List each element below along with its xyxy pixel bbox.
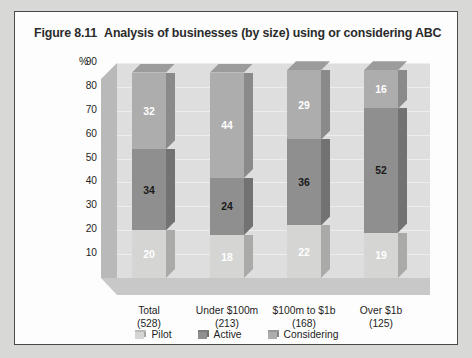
figure-panel: Figure 8.11Analysis of businesses (by si… — [14, 11, 458, 345]
swatch-top — [268, 330, 279, 332]
y-axis-tick-70: 70 — [71, 104, 97, 115]
y-axis-tick-60: 60 — [71, 128, 97, 139]
category-name: Under $100m — [196, 305, 258, 316]
bar-segment-side — [321, 225, 330, 278]
swatch-face — [198, 332, 207, 339]
y-axis-tick-80: 80 — [71, 80, 97, 91]
legend-label: Pilot — [151, 329, 171, 340]
chart-floor — [101, 278, 430, 295]
bar-segment-considering[interactable]: 44 — [210, 73, 244, 178]
legend-item-pilot[interactable]: Pilot — [135, 329, 171, 340]
y-axis-tick-10: 10 — [71, 247, 97, 258]
bar-segment-side — [166, 149, 175, 230]
y-axis-tick-30: 30 — [71, 199, 97, 210]
bar-segment-pilot[interactable]: 19 — [364, 233, 398, 278]
bar-segment-face — [287, 70, 321, 139]
bar-segment-face — [287, 225, 321, 278]
y-axis-tick-20: 20 — [71, 223, 97, 234]
chart-left-wall — [101, 63, 117, 278]
bar-segment-side — [321, 139, 330, 225]
bar-segment-side — [244, 178, 253, 235]
bar-segment-face — [287, 139, 321, 225]
legend-swatch-icon — [268, 330, 279, 339]
bar-segment-face — [132, 230, 166, 278]
legend-label: Active — [214, 329, 242, 340]
bar-segment-pilot[interactable]: 22 — [287, 225, 321, 278]
bar-segment-face — [210, 73, 244, 178]
bar-segment-face — [210, 235, 244, 278]
bar-segment-face — [210, 178, 244, 235]
bar-segment-active[interactable]: 36 — [287, 139, 321, 225]
legend-label: Considering — [284, 329, 339, 340]
y-axis-tick-50: 50 — [71, 152, 97, 163]
figure-title-text: Analysis of businesses (by size) using o… — [104, 26, 441, 40]
bar-segment-side — [244, 73, 253, 178]
page-title: Figure 8.11Analysis of businesses (by si… — [34, 26, 441, 40]
swatch-face — [135, 332, 144, 339]
category-name: $100m to $1b — [273, 305, 336, 316]
legend-item-considering[interactable]: Considering — [268, 329, 339, 340]
bar-segment-side — [398, 108, 407, 232]
bar-segment-considering[interactable]: 16 — [364, 70, 398, 108]
bar-segment-face — [132, 149, 166, 230]
legend-swatch-icon — [135, 330, 146, 339]
y-axis-tick-40: 40 — [71, 175, 97, 186]
y-axis-unit-label: % — [79, 56, 88, 67]
bar-segment-pilot[interactable]: 20 — [132, 230, 166, 278]
swatch-top — [198, 330, 209, 332]
chart-legend: PilotActiveConsidering — [33, 329, 441, 340]
chart-plot-area: 90%8070605040302010 20343218244422362919… — [33, 54, 441, 299]
category-name: Total — [138, 305, 160, 316]
bar-segment-considering[interactable]: 32 — [132, 73, 166, 149]
swatch-top — [135, 330, 146, 332]
bar-segment-active[interactable]: 34 — [132, 149, 166, 230]
bar-segment-considering[interactable]: 29 — [287, 70, 321, 139]
x-axis-category-label: Over $1b(125) — [329, 304, 433, 330]
bar-segment-side — [321, 70, 330, 139]
bar-segment-active[interactable]: 52 — [364, 108, 398, 232]
bar-segment-active[interactable]: 24 — [210, 178, 244, 235]
bar-segment-side — [166, 73, 175, 149]
bar-segment-face — [364, 233, 398, 278]
swatch-face — [268, 332, 277, 339]
legend-item-active[interactable]: Active — [198, 329, 242, 340]
bar-segment-face — [364, 108, 398, 232]
bar-segment-pilot[interactable]: 18 — [210, 235, 244, 278]
figure-number: Figure 8.11 — [34, 26, 97, 40]
legend-swatch-icon — [198, 330, 209, 339]
bar-segment-face — [364, 70, 398, 108]
bar-segment-face — [132, 73, 166, 149]
category-name: Over $1b — [360, 305, 402, 316]
